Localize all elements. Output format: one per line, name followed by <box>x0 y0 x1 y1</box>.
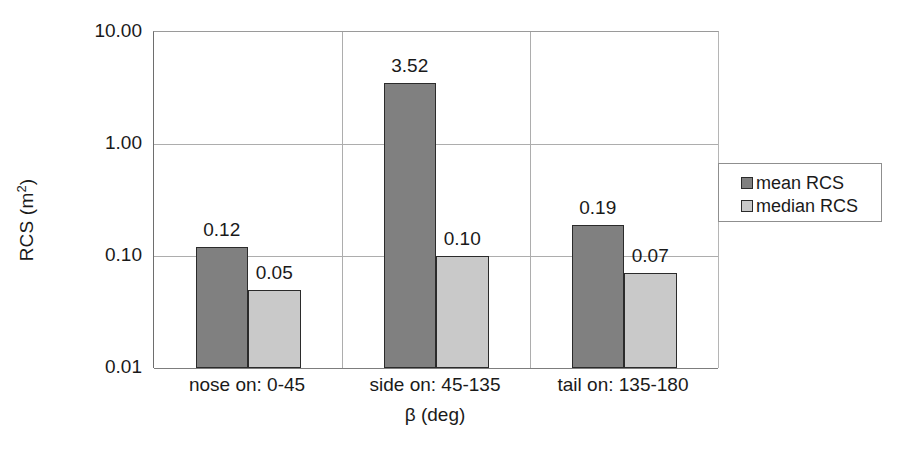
y-tick-label: 0.10 <box>35 244 153 266</box>
y-tick-label: 0.01 <box>35 356 153 378</box>
bar-value-label: 0.12 <box>203 219 240 241</box>
legend-item[interactable]: median RCS <box>741 195 881 217</box>
x-category-label: tail on: 135-180 <box>558 374 689 396</box>
x-category-label: nose on: 0-45 <box>189 374 305 396</box>
legend-item[interactable]: mean RCS <box>741 172 881 194</box>
x-axis-title: β (deg) <box>153 404 717 426</box>
bar-value-label: 0.19 <box>579 197 616 219</box>
rcs-bar-chart: RCS (m2) 10.001.000.100.01 0.120.053.520… <box>0 0 922 451</box>
bar-median-2[interactable] <box>624 273 677 368</box>
category-separator <box>342 32 343 368</box>
bar-mean-0[interactable] <box>196 247 249 368</box>
x-category-label: side on: 45-135 <box>370 374 501 396</box>
y-axis-tick-labels: 10.001.000.100.01 <box>0 31 153 367</box>
bar-mean-1[interactable] <box>384 83 437 368</box>
legend-label: median RCS <box>756 196 858 217</box>
category-separator <box>530 32 531 368</box>
bar-value-label: 0.05 <box>256 262 293 284</box>
gridline-0.01 <box>154 368 718 369</box>
bar-value-label: 0.07 <box>632 245 669 267</box>
bar-median-0[interactable] <box>248 290 301 368</box>
y-tick-label: 1.00 <box>35 132 153 154</box>
bar-value-label: 3.52 <box>391 55 428 77</box>
plot-area: 0.120.053.520.100.190.07 <box>153 31 719 368</box>
bar-mean-2[interactable] <box>572 225 625 368</box>
chart-legend: mean RCSmedian RCS <box>718 163 882 222</box>
legend-label: mean RCS <box>756 173 844 194</box>
bar-median-1[interactable] <box>436 256 489 368</box>
bar-value-label: 0.10 <box>444 228 481 250</box>
legend-swatch-icon <box>741 177 753 189</box>
gridline-1.00 <box>154 144 718 145</box>
y-tick-label: 10.00 <box>35 20 153 42</box>
legend-swatch-icon <box>741 200 753 212</box>
